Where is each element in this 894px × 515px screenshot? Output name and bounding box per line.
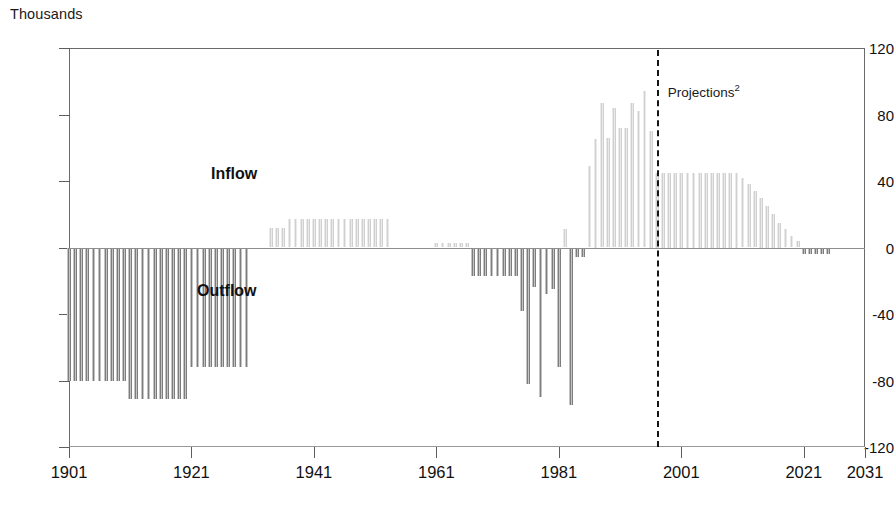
x-axis-tick	[191, 447, 192, 458]
bar	[355, 219, 359, 247]
bar	[692, 173, 696, 248]
inflow-label: Inflow	[211, 165, 257, 183]
x-axis-tick-label: 2031	[847, 463, 884, 482]
bar	[581, 248, 585, 258]
bar	[643, 91, 647, 247]
bar	[165, 248, 169, 399]
bar	[98, 248, 102, 381]
y-axis-unit-label: Thousands	[10, 6, 83, 22]
bar	[159, 248, 163, 399]
bar	[183, 248, 187, 399]
bar	[741, 178, 745, 248]
bar	[79, 248, 83, 381]
x-axis-tick-label: 2021	[785, 463, 822, 482]
bar	[128, 248, 132, 399]
bar	[698, 173, 702, 248]
bar	[765, 206, 769, 248]
bar	[171, 248, 175, 399]
bar	[318, 219, 322, 247]
bar	[624, 128, 628, 248]
bar	[777, 223, 781, 248]
bar	[735, 173, 739, 248]
bar	[239, 248, 243, 368]
bar	[67, 248, 71, 381]
bar	[508, 248, 512, 276]
bar	[594, 139, 598, 247]
x-axis-tick	[681, 447, 682, 458]
bar	[759, 198, 763, 248]
bar	[104, 248, 108, 381]
bar	[116, 248, 120, 381]
x-axis-tick	[69, 447, 70, 458]
bar	[196, 248, 200, 368]
bar	[208, 248, 212, 368]
bar	[771, 214, 775, 247]
bar	[686, 173, 690, 248]
bar	[367, 219, 371, 247]
bar	[502, 248, 506, 276]
bar	[92, 248, 96, 381]
bar	[306, 219, 310, 247]
bar	[551, 248, 555, 290]
bar	[214, 248, 218, 368]
bar	[141, 248, 145, 399]
chart-container: Thousands 12080400-40-80-120 19011921194…	[0, 0, 894, 515]
bar	[153, 248, 157, 399]
bar	[110, 248, 114, 381]
bar	[618, 128, 622, 248]
zero-baseline	[69, 248, 865, 249]
bar	[269, 228, 273, 248]
bar	[275, 228, 279, 248]
bar	[612, 108, 616, 248]
x-axis-tick	[804, 447, 805, 458]
bar	[710, 173, 714, 248]
x-axis-tick-label: 1961	[418, 463, 455, 482]
bar	[722, 173, 726, 248]
bar	[312, 219, 316, 247]
bar	[588, 166, 592, 247]
bar	[747, 184, 751, 247]
bar	[147, 248, 151, 399]
bar	[514, 248, 518, 276]
bar	[496, 248, 500, 276]
x-axis-tick	[559, 447, 560, 458]
bar	[134, 248, 138, 399]
bar	[85, 248, 89, 381]
bar	[667, 173, 671, 248]
bar	[471, 248, 475, 276]
bar	[575, 248, 579, 258]
bar	[281, 228, 285, 248]
projection-divider-line	[657, 50, 659, 447]
bar	[539, 248, 543, 398]
outflow-label: Outflow	[197, 282, 257, 300]
x-axis-tick	[314, 447, 315, 458]
bar	[337, 219, 341, 247]
bar	[373, 219, 377, 247]
bar	[649, 131, 653, 247]
bar	[361, 219, 365, 247]
bar	[796, 241, 800, 248]
bar	[679, 173, 683, 248]
bar	[232, 248, 236, 368]
x-axis-tick-label: 1941	[296, 463, 333, 482]
bar	[790, 236, 794, 248]
bar	[330, 219, 334, 247]
bar	[784, 229, 788, 247]
projections-text: Projections	[668, 85, 735, 100]
bar	[477, 248, 481, 276]
x-axis-tick-label: 1901	[51, 463, 88, 482]
bar	[704, 173, 708, 248]
bar	[294, 219, 298, 247]
bar	[569, 248, 573, 406]
bar	[728, 173, 732, 248]
bar	[288, 219, 292, 247]
x-axis-tick-label: 2001	[663, 463, 700, 482]
bar	[526, 248, 530, 384]
bar	[226, 248, 230, 368]
projections-footnote-marker: 2	[735, 82, 740, 93]
bar	[532, 248, 536, 288]
bar	[202, 248, 206, 368]
bar	[379, 219, 383, 247]
bar	[220, 248, 224, 368]
bar	[520, 248, 524, 311]
